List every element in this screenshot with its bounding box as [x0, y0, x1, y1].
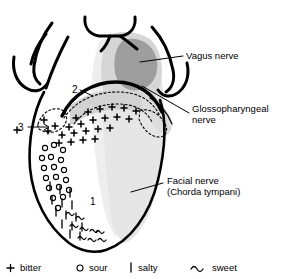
tongue-nerve-diagram: Vagus nerve Glossopharyngeal nerve Facia… — [0, 0, 285, 279]
plus-symbol — [7, 265, 14, 272]
circle-symbol — [77, 265, 83, 271]
diagram-canvas: Vagus nerve Glossopharyngeal nerve Facia… — [0, 0, 285, 279]
label-vagus-nerve: Vagus nerve — [186, 50, 239, 61]
legend: bitter sour salty sweet — [7, 262, 237, 273]
legend-item-sour — [77, 265, 83, 271]
label-glossopharyngeal-line1: Glossopharyngeal — [192, 103, 269, 114]
wave-symbol — [191, 267, 203, 272]
legend-item-sweet — [191, 267, 203, 272]
label-facial-line2: (Chorda tympani) — [167, 186, 240, 197]
shading-group — [70, 32, 172, 243]
legend-item-bitter — [7, 265, 14, 272]
region-number-2: 2 — [72, 84, 78, 95]
legend-label-bitter: bitter — [20, 262, 41, 273]
legend-label-salty: salty — [138, 262, 158, 273]
region-number-1: 1 — [90, 196, 96, 207]
legend-label-sour: sour — [89, 262, 107, 273]
region-number-3: 3 — [18, 122, 24, 133]
epiglottis-left-fold — [85, 17, 111, 36]
label-glossopharyngeal-line2: nerve — [192, 114, 216, 125]
sour-symbol-field — [39, 142, 71, 210]
circle-symbol — [39, 142, 71, 210]
label-facial-line1: Facial nerve — [167, 175, 219, 186]
legend-label-sweet: sweet — [212, 262, 237, 273]
pillar-left — [46, 37, 68, 88]
